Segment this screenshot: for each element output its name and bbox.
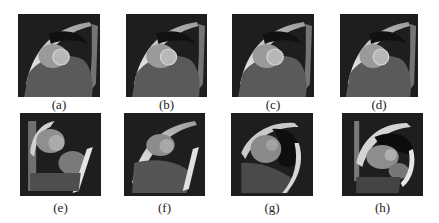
mri-image <box>342 113 423 196</box>
mri-image <box>126 14 207 97</box>
panel-caption: (b) <box>122 97 212 113</box>
mri-image <box>20 113 101 196</box>
mri-image <box>124 113 205 196</box>
panel-caption: (d) <box>334 97 424 113</box>
panel-caption: (e) <box>16 200 106 216</box>
mri-image <box>18 14 100 97</box>
panel-caption: (g) <box>227 200 317 216</box>
mri-image <box>231 113 313 196</box>
panel-caption: (h) <box>338 200 428 216</box>
panel-caption: (a) <box>14 97 104 113</box>
panel-caption: (f) <box>120 200 210 216</box>
mri-image <box>232 14 314 97</box>
mri-image <box>340 14 418 97</box>
panel-caption: (c) <box>228 97 318 113</box>
